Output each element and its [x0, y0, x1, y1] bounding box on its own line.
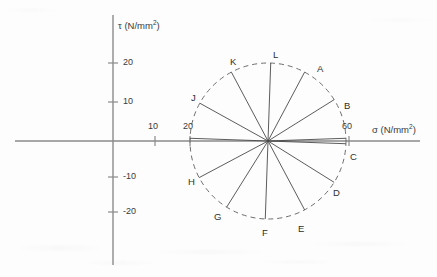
- axes-group: [15, 15, 420, 265]
- point-label-F: F: [262, 228, 268, 238]
- point-label-K: K: [230, 57, 236, 67]
- point-label-C: C: [350, 152, 357, 162]
- radius-A: [268, 72, 305, 141]
- radius-E: [268, 141, 305, 210]
- radius-B: [268, 100, 334, 141]
- point-label-D: D: [333, 188, 340, 198]
- radius-D: [268, 141, 334, 182]
- x-tick-label-10: 10: [148, 122, 158, 131]
- point-label-L: L: [273, 50, 278, 60]
- point-label-B: B: [344, 101, 350, 111]
- y-tick-label--20: -20: [123, 207, 136, 216]
- radius-H: [199, 141, 268, 178]
- stress-circle-diagram: [0, 0, 437, 277]
- x-tick-label-60: 60: [342, 122, 352, 131]
- x-tick-label-20: 20: [183, 122, 193, 131]
- point-label-J: J: [191, 93, 196, 103]
- point-label-A: A: [317, 64, 323, 74]
- point-label-H: H: [188, 177, 195, 187]
- tick-marks-group: [108, 63, 349, 212]
- x-axis-title: σ (N/mm2): [372, 124, 416, 135]
- radius-F: [265, 141, 268, 219]
- point-label-E: E: [298, 224, 304, 234]
- point-label-G: G: [214, 212, 221, 222]
- y-tick-label-10: 10: [123, 97, 133, 106]
- radius-L: [268, 63, 271, 141]
- radius-G: [227, 141, 268, 207]
- y-tick-label-20: 20: [123, 58, 133, 67]
- y-axis-title: τ (N/mm2): [118, 20, 160, 31]
- y-tick-label--10: -10: [123, 172, 136, 181]
